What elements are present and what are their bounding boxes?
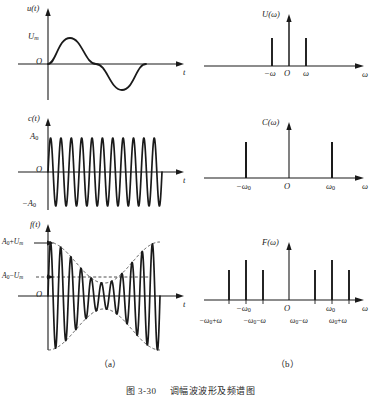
spectral-label-0: −ω0+ω (199, 317, 222, 326)
amplitude-label-a0-pos: A0 (30, 132, 38, 141)
panel-C-omega: C(ω) ω O −ω0 ω0 (196, 106, 381, 214)
plot-u-t (0, 0, 196, 106)
axis-label-U-omega: U(ω) (262, 10, 280, 19)
panel-U-omega: U(ω) ω −ω O ω (196, 0, 381, 106)
spectral-label-1: −ω0−ω (243, 317, 266, 326)
spectral-label-2: ω0−ω (290, 317, 308, 326)
amplitude-label-um: Um (28, 32, 39, 41)
axis-label-t-1: t (183, 68, 185, 77)
y-axis-arrow-u-t (45, 8, 50, 16)
origin-label-c-t: O (36, 165, 42, 174)
origin-label-f-t: O (36, 290, 42, 299)
amplitude-label-a0-neg: −A0 (22, 199, 36, 208)
sub-caption-a: （a） (99, 357, 121, 370)
plot-C-omega (196, 106, 381, 214)
plot-U-omega (196, 0, 381, 106)
y-axis-arrow-f-t (45, 224, 50, 232)
axis-label-F-omega: F(ω) (262, 238, 279, 247)
level-label-lower: A0−Um (2, 272, 23, 281)
axis-label-omega-1: ω (362, 70, 368, 79)
figure-caption-number: 图 3-30 (126, 386, 157, 396)
axis-label-t-2: t (183, 176, 185, 185)
spectral-label-3: ω0+ω (329, 317, 347, 326)
panel-u-t: u(t) t O Um (0, 0, 196, 106)
x-axis-arrow-F-omega (355, 297, 364, 303)
tick-label-neg-omega: −ω (264, 69, 276, 78)
x-axis-arrow-U-omega (355, 63, 364, 69)
y-axis-arrow-C-omega (286, 122, 291, 130)
figure-caption: 图 3-30 调幅波波形及频谱图 (0, 384, 381, 397)
sub-caption-b: （b） (276, 357, 299, 370)
figure-caption-text: 调幅波波形及频谱图 (170, 386, 256, 396)
x-axis-arrow-C-omega (355, 175, 364, 181)
origin-label-U-omega: O (284, 69, 290, 78)
y-axis-arrow-F-omega (286, 242, 291, 250)
axis-label-C-omega: C(ω) (262, 118, 279, 127)
figure-container: u(t) t O Um U(ω) ω −ω O ω (0, 0, 381, 402)
plot-F-omega (196, 214, 381, 354)
panel-f-t: f(t) t O A0+Um A0−Um (0, 214, 196, 354)
x-axis-arrow-f-t (176, 293, 184, 298)
axis-label-omega-2: ω (362, 182, 368, 191)
plot-f-t (0, 214, 196, 354)
tick-label-pos-omega: ω (303, 69, 309, 78)
panel-F-omega: F(ω) ω O −ω0 ω0 −ω0+ω −ω0−ω ω0−ω ω0+ω (196, 214, 381, 354)
origin-label-F-omega: O (284, 304, 290, 313)
origin-label-u-t: O (36, 57, 42, 66)
y-axis-arrow-c-t (45, 118, 50, 126)
level-label-upper: A0+Um (2, 238, 23, 247)
axis-label-t-3: t (183, 300, 185, 309)
tick-label-pos-omega0-C: ω0 (326, 182, 335, 191)
axis-tick-pos-omega0-F: ω0 (326, 304, 335, 313)
y-axis-arrow-U-omega (286, 14, 291, 22)
axis-label-omega-3: ω (362, 304, 368, 313)
tick-label-neg-omega0-C: −ω0 (236, 182, 251, 191)
x-axis-arrow-u-t (176, 61, 184, 66)
axis-label-u-t: u(t) (27, 4, 39, 13)
panel-c-t: c(t) t O A0 −A0 (0, 106, 196, 214)
origin-label-C-omega: O (284, 182, 290, 191)
axis-label-c-t: c(t) (28, 114, 40, 123)
x-axis-arrow-c-t (176, 169, 184, 174)
axis-tick-neg-omega0-F: −ω0 (236, 304, 251, 313)
axis-label-f-t: f(t) (30, 220, 40, 229)
